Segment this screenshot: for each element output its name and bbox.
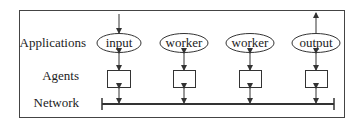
architecture-diagram: Applications Agents Network input worker… bbox=[0, 0, 362, 127]
applications-label: Applications bbox=[20, 35, 86, 50]
agents-label: Agents bbox=[42, 68, 79, 83]
agent-box bbox=[108, 71, 131, 88]
network-label: Network bbox=[34, 95, 80, 110]
column-input: input bbox=[97, 14, 141, 103]
agent-box bbox=[240, 71, 262, 88]
application-label: input bbox=[106, 35, 133, 50]
agent-box bbox=[174, 71, 196, 88]
column-worker-1: worker bbox=[160, 34, 208, 104]
column-worker-2: worker bbox=[226, 34, 274, 104]
application-label: output bbox=[299, 35, 333, 50]
agent-box bbox=[306, 71, 328, 88]
application-label: worker bbox=[232, 35, 269, 50]
column-output: output bbox=[292, 13, 340, 103]
application-label: worker bbox=[166, 35, 203, 50]
